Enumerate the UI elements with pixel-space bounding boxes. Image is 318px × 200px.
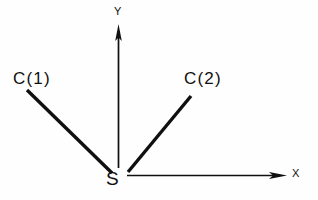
- y-axis-label: Y: [114, 6, 122, 17]
- x-axis-label: X: [292, 168, 300, 179]
- diagram-canvas: Y X S C(1) C(2): [0, 0, 318, 200]
- ray-c2-line: [128, 96, 191, 172]
- diagram-vector-graphics: [0, 0, 318, 200]
- ray-c1-label: C(1): [13, 70, 51, 87]
- ray-c1-line: [27, 90, 112, 173]
- origin-label: S: [106, 169, 119, 188]
- ray-c2-label: C(2): [184, 70, 222, 87]
